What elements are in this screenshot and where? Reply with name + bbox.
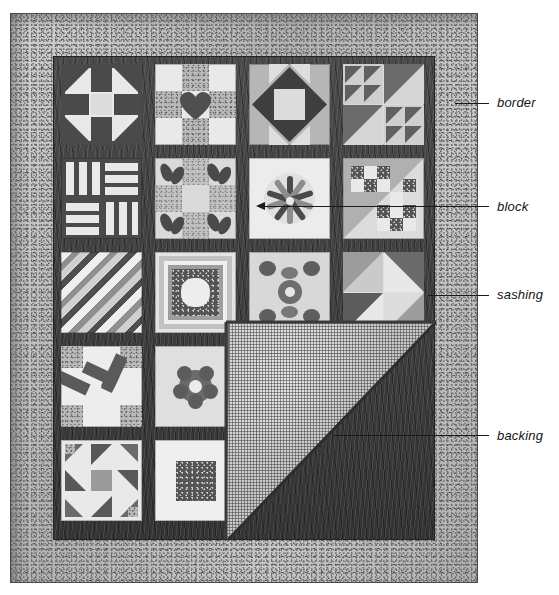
quilt-block-rail-fence: [61, 158, 142, 239]
quilt-block-square-in-a-square-star: [249, 64, 330, 145]
leader-line-sashing: [428, 295, 489, 296]
quilt-block-diagonal-stripes: [61, 252, 142, 333]
quilt-block-dresden-fan: [249, 158, 330, 239]
heart-shape: [180, 92, 211, 120]
leader-line-block: [263, 206, 489, 207]
quilt-block-framed-center-square: [155, 440, 236, 521]
quilt-block-pinwheel-star: [61, 346, 142, 427]
quilt-photograph: [10, 13, 478, 583]
leader-line-backing: [334, 435, 489, 436]
annotation-label-backing: backing: [497, 428, 543, 443]
annotation-label-block: block: [497, 199, 528, 214]
quilt-block-half-square-triangle-sampler: [343, 64, 424, 145]
figure-canvas: border block sashing backing: [0, 0, 559, 595]
arrowhead-block: [256, 202, 265, 210]
quilt-block-bowtie-petal-applique: [155, 158, 236, 239]
annotation-label-sashing: sashing: [497, 287, 543, 302]
quilt-block-broken-dishes: [343, 252, 424, 333]
quilt-block-rose-applique: [155, 346, 236, 427]
quilt-block-framed-medallion: [155, 252, 236, 333]
quilt-block-ohio-star-pinwheel: [61, 440, 142, 521]
quilt-block-checkerboard-diagonal: [343, 158, 424, 239]
quilt-block-floral-wreath-applique: [249, 252, 330, 333]
leader-line-border: [455, 103, 489, 104]
quilt-block-churn-dash: [61, 64, 142, 145]
annotation-label-border: border: [497, 95, 536, 110]
leader-tick-border: [455, 103, 456, 104]
quilt-block-heart-nine-patch: [155, 64, 236, 145]
